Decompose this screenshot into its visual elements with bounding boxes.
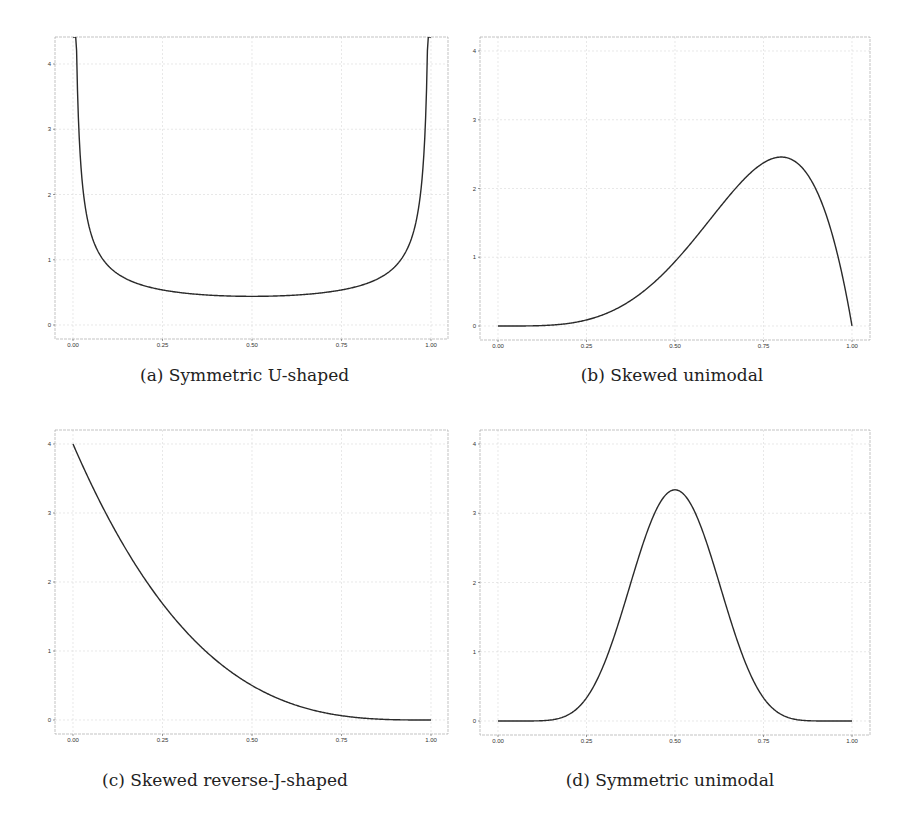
x-tick-label: 1.00: [425, 342, 437, 348]
x-tick-label: 1.00: [425, 737, 437, 743]
x-tick-label: 0.75: [336, 342, 348, 348]
y-tick-label: 0: [473, 718, 477, 724]
x-tick-label: 0.25: [581, 343, 593, 349]
y-tick-label: 1: [473, 254, 477, 260]
plot-a: 0.000.250.500.751.0001234: [48, 37, 448, 348]
x-tick-label: 1.00: [846, 738, 858, 744]
y-tick-label: 1: [473, 649, 477, 655]
x-tick-label: 0.50: [669, 738, 681, 744]
y-tick-label: 2: [473, 580, 477, 586]
x-tick-label: 0.75: [758, 343, 770, 349]
x-tick-label: 0.50: [246, 342, 258, 348]
y-tick-label: 3: [473, 117, 477, 123]
x-tick-label: 0.50: [246, 737, 258, 743]
plot-b: 0.000.250.500.751.0001234: [473, 37, 870, 349]
y-tick-label: 3: [473, 510, 477, 516]
y-tick-label: 2: [48, 192, 52, 198]
y-tick-label: 0: [48, 717, 52, 723]
y-tick-label: 1: [48, 257, 52, 263]
y-tick-label: 1: [48, 648, 52, 654]
figure-plots: 0.000.250.500.751.00012340.000.250.500.7…: [0, 0, 916, 826]
y-tick-label: 2: [473, 186, 477, 192]
x-tick-label: 0.25: [157, 737, 169, 743]
x-tick-label: 0.00: [67, 342, 79, 348]
y-tick-label: 4: [473, 48, 477, 54]
y-tick-label: 4: [473, 441, 477, 447]
x-tick-label: 0.25: [581, 738, 593, 744]
y-tick-label: 3: [48, 510, 52, 516]
x-tick-label: 0.75: [336, 737, 348, 743]
x-tick-label: 0.75: [758, 738, 770, 744]
y-tick-label: 0: [48, 322, 52, 328]
plot-d: 0.000.250.500.751.0001234: [473, 430, 870, 744]
x-tick-label: 0.00: [492, 343, 504, 349]
y-tick-label: 0: [473, 323, 477, 329]
x-tick-label: 0.00: [492, 738, 504, 744]
plot-c: 0.000.250.500.751.0001234: [48, 430, 448, 743]
x-tick-label: 0.50: [669, 343, 681, 349]
x-tick-label: 0.00: [67, 737, 79, 743]
y-tick-label: 2: [48, 579, 52, 585]
y-tick-label: 3: [48, 126, 52, 132]
x-tick-label: 1.00: [846, 343, 858, 349]
y-tick-label: 4: [48, 61, 52, 67]
x-tick-label: 0.25: [157, 342, 169, 348]
y-tick-label: 4: [48, 441, 52, 447]
